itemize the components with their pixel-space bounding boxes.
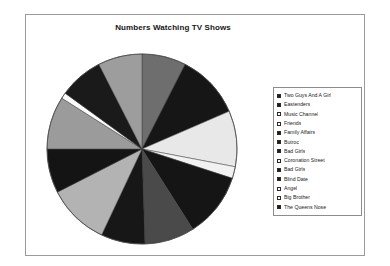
legend-swatch-icon — [277, 159, 281, 163]
legend-item-label: Two Guys And A Girl — [284, 93, 331, 98]
legend-item: Two Guys And A Girl — [277, 91, 359, 100]
pie-chart — [44, 51, 240, 247]
legend-item-label: Blind Date — [284, 177, 308, 182]
legend-item-label: Friends — [284, 121, 301, 126]
legend-item-label: Coronation Street — [284, 158, 325, 163]
legend-swatch-icon — [277, 103, 281, 107]
legend-item: Coronation Street — [277, 156, 359, 165]
chart-title: Numbers Watching TV Shows — [4, 23, 342, 32]
legend-item-label: Music Channel — [284, 112, 318, 117]
chart-frame: Numbers Watching TV Shows Two Guys And A… — [25, 14, 365, 256]
legend-item: Friends — [277, 119, 359, 128]
legend-swatch-icon — [277, 131, 281, 135]
legend-swatch-icon — [277, 149, 281, 153]
legend-swatch-icon — [277, 122, 281, 126]
legend-item: Bad Girls — [277, 147, 359, 156]
legend-item-label: Family Affairs — [284, 130, 315, 135]
legend-swatch-icon — [277, 187, 281, 191]
legend-item-label: Bad Girls — [284, 149, 305, 154]
legend-item-label: Angel — [284, 186, 297, 191]
legend-swatch-icon — [277, 177, 281, 181]
legend-swatch-icon — [277, 205, 281, 209]
legend-item-label: Big Brother — [284, 195, 310, 200]
legend-swatch-icon — [277, 196, 281, 200]
legend-item: Blind Date — [277, 175, 359, 184]
chart-legend: Two Guys And A GirlEastendersMusic Chann… — [273, 87, 362, 216]
legend-item-label: Butroc — [284, 140, 299, 145]
legend-item: The Queens Nose — [277, 203, 359, 212]
legend-item-label: The Queens Nose — [284, 205, 326, 210]
pie-slice-group — [47, 54, 237, 244]
pie-svg — [44, 51, 240, 247]
legend-item: Bad Girls — [277, 165, 359, 174]
legend-item: Eastenders — [277, 100, 359, 109]
legend-item: Angel — [277, 184, 359, 193]
legend-swatch-icon — [277, 168, 281, 172]
legend-item: Music Channel — [277, 110, 359, 119]
legend-swatch-icon — [277, 140, 281, 144]
legend-item-label: Eastenders — [284, 102, 310, 107]
legend-item: Family Affairs — [277, 128, 359, 137]
legend-swatch-icon — [277, 112, 281, 116]
legend-item: Butroc — [277, 137, 359, 146]
legend-swatch-icon — [277, 94, 281, 98]
legend-item-label: Bad Girls — [284, 167, 305, 172]
legend-item: Big Brother — [277, 193, 359, 202]
